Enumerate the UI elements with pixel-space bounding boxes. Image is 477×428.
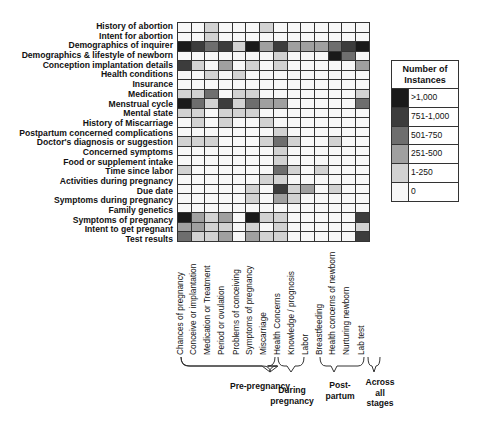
heatmap-cell xyxy=(219,42,233,52)
heatmap-cell xyxy=(315,213,329,223)
heatmap-cell xyxy=(288,137,302,147)
legend-swatch xyxy=(392,145,409,163)
heatmap-cell xyxy=(260,33,274,43)
heatmap-cell xyxy=(274,61,288,71)
heatmap-cell xyxy=(329,185,343,195)
heatmap-cell xyxy=(301,128,315,138)
heatmap-cell xyxy=(233,23,247,33)
heatmap-row xyxy=(178,147,370,157)
heatmap-row xyxy=(178,175,370,185)
heatmap-cell xyxy=(233,213,247,223)
heatmap-cell xyxy=(356,80,370,90)
heatmap-row xyxy=(178,52,370,62)
heatmap-row xyxy=(178,166,370,176)
heatmap-cell xyxy=(288,213,302,223)
heatmap-cell xyxy=(288,128,302,138)
heatmap-cell xyxy=(178,90,192,100)
legend-entry: 751-1,000 xyxy=(392,108,458,127)
heatmap-cell xyxy=(274,42,288,52)
heatmap-cell xyxy=(192,118,206,128)
legend-entry: 501-750 xyxy=(392,127,458,146)
heatmap-cell xyxy=(329,52,343,62)
heatmap-cell xyxy=(301,166,315,176)
legend-label: 0 xyxy=(409,183,416,201)
heatmap-cell xyxy=(356,166,370,176)
heatmap-cell xyxy=(356,109,370,119)
heatmap-cell xyxy=(356,128,370,138)
heatmap-cell xyxy=(315,109,329,119)
legend-swatch xyxy=(392,89,409,107)
heatmap-cell xyxy=(246,232,260,242)
heatmap-cell xyxy=(246,80,260,90)
heatmap-cell xyxy=(329,23,343,33)
heatmap-cell xyxy=(205,52,219,62)
heatmap-cell xyxy=(315,42,329,52)
heatmap-cell xyxy=(274,156,288,166)
column-label-text: Problems of conceiving xyxy=(230,269,240,355)
heatmap-cell xyxy=(246,185,260,195)
heatmap-cell xyxy=(246,156,260,166)
heatmap-cell xyxy=(260,175,274,185)
heatmap-cell xyxy=(233,33,247,43)
heatmap-cell xyxy=(205,175,219,185)
heatmap-cell xyxy=(205,185,219,195)
heatmap-cell xyxy=(246,71,260,81)
heatmap-cell xyxy=(356,90,370,100)
heatmap-cell xyxy=(288,90,302,100)
heatmap-cell xyxy=(219,118,233,128)
heatmap-row xyxy=(178,23,370,33)
heatmap-cell xyxy=(315,175,329,185)
heatmap-cell xyxy=(260,147,274,157)
heatmap-cell xyxy=(205,213,219,223)
heatmap-cell xyxy=(288,223,302,233)
heatmap-cell xyxy=(342,109,356,119)
heatmap-cell xyxy=(246,128,260,138)
heatmap-cell xyxy=(274,128,288,138)
heatmap-cell xyxy=(356,223,370,233)
heatmap-cell xyxy=(260,185,274,195)
heatmap-cell xyxy=(219,71,233,81)
heatmap-cell xyxy=(301,137,315,147)
heatmap-cell xyxy=(260,128,274,138)
heatmap-cell xyxy=(205,33,219,43)
heatmap-cell xyxy=(233,128,247,138)
legend-label: 501-750 xyxy=(409,127,442,145)
heatmap-cell xyxy=(342,61,356,71)
heatmap-cell xyxy=(233,52,247,62)
heatmap-cell xyxy=(342,33,356,43)
heatmap-cell xyxy=(178,71,192,81)
column-label: Lab test xyxy=(358,250,372,355)
heatmap-cell xyxy=(205,90,219,100)
heatmap-cell xyxy=(274,213,288,223)
heatmap-cell xyxy=(178,118,192,128)
column-label-text: Health concerns of newborn xyxy=(328,252,338,355)
heatmap-cell xyxy=(192,90,206,100)
heatmap-cell xyxy=(246,61,260,71)
heatmap-cell xyxy=(205,61,219,71)
heatmap-cell xyxy=(356,156,370,166)
heatmap-cell xyxy=(260,232,274,242)
heatmap-cell xyxy=(192,137,206,147)
heatmap-cell xyxy=(274,23,288,33)
heatmap-row xyxy=(178,137,370,147)
legend-entry: 1-250 xyxy=(392,164,458,183)
heatmap-cell xyxy=(288,109,302,119)
heatmap-cell xyxy=(301,33,315,43)
heatmap-cell xyxy=(315,147,329,157)
heatmap-cell xyxy=(178,213,192,223)
heatmap-cell xyxy=(246,23,260,33)
heatmap-cell xyxy=(205,223,219,233)
heatmap-cell xyxy=(192,213,206,223)
heatmap-cell xyxy=(356,61,370,71)
heatmap-cell xyxy=(219,185,233,195)
column-label-text: Medication or Treatment xyxy=(203,266,213,355)
heatmap-cell xyxy=(178,99,192,109)
heatmap-cell xyxy=(288,52,302,62)
heatmap-cell xyxy=(233,147,247,157)
heatmap-cell xyxy=(274,137,288,147)
heatmap-cell xyxy=(178,61,192,71)
legend-swatch xyxy=(392,127,409,145)
heatmap-cell xyxy=(356,213,370,223)
heatmap-cell xyxy=(274,166,288,176)
heatmap-cell xyxy=(342,23,356,33)
